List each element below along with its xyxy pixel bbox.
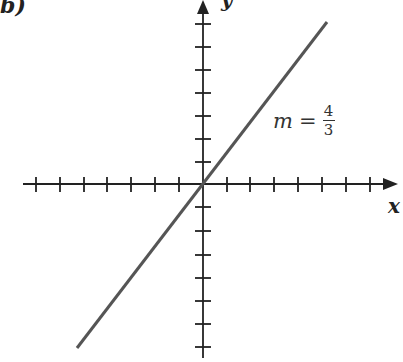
y-axis-arrow-icon [197,0,209,14]
x-axis-arrow-icon [383,178,398,190]
part-label: b) [0,0,26,18]
slope-numerator: 4 [324,103,334,119]
x-axis-label: x [388,194,400,218]
slope-annotation: m = 4 3 [273,103,335,138]
slope-fraction: 4 3 [323,103,335,138]
coordinate-plane [0,0,403,362]
y-axis-label: y [221,0,233,12]
equals-sign: = [299,109,317,133]
slope-denominator: 3 [324,122,334,138]
slope-variable: m [273,109,293,133]
